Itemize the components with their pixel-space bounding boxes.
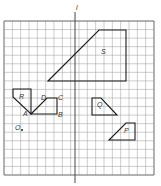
shape-label-q: Q — [97, 101, 103, 109]
shape-label-r: R — [19, 93, 24, 100]
vertex-label-a: A — [22, 110, 28, 117]
grid — [4, 21, 154, 175]
shape-p — [109, 123, 135, 140]
shape-label-p: P — [124, 127, 129, 134]
mirror-line-label: l — [76, 4, 78, 11]
shape-label-s: S — [101, 48, 106, 55]
shape-s — [48, 30, 126, 81]
vertex-label-o: O — [15, 124, 21, 131]
transformation-diagram: l SRQP ABCDO — [0, 0, 161, 186]
vertex-label-c: C — [58, 94, 64, 101]
point-o — [21, 129, 23, 131]
vertex-label-d: D — [41, 94, 46, 101]
vertex-label-b: B — [58, 111, 63, 118]
